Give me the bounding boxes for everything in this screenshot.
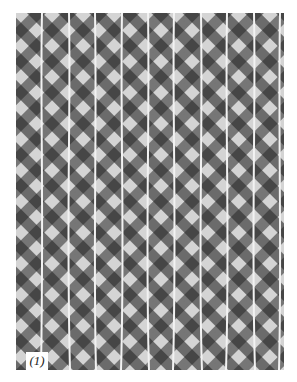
wavy-vertical-lines	[16, 13, 284, 370]
checker-pattern-photo	[16, 13, 284, 370]
figure-label: (1)	[26, 352, 48, 370]
